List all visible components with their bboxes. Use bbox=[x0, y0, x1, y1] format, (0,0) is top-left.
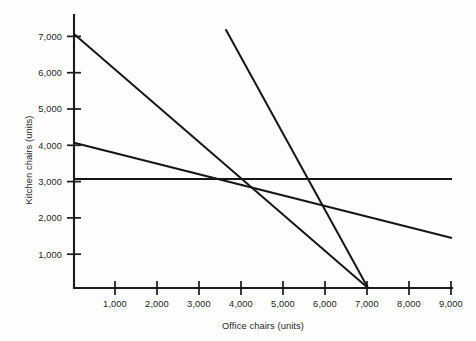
series-group bbox=[74, 29, 452, 288]
x-tick-label-9000: 9,000 bbox=[439, 299, 463, 309]
y-tick-label-2000: 2,000 bbox=[38, 213, 62, 223]
y-axis-title: Kitchen chairs (units) bbox=[24, 115, 34, 204]
y-tick-label-5000: 5,000 bbox=[38, 104, 62, 114]
y-tick-label-3000: 3,000 bbox=[38, 177, 62, 187]
y-tick-label-4000: 4,000 bbox=[38, 141, 62, 151]
x-tick-label-6000: 6,000 bbox=[313, 299, 337, 309]
series-constraint-line-1 bbox=[74, 34, 368, 288]
y-tick-label-1000: 1,000 bbox=[38, 250, 62, 260]
axes-group bbox=[74, 15, 452, 288]
x-tick-label-8000: 8,000 bbox=[397, 299, 421, 309]
series-constraint-line-2 bbox=[74, 143, 452, 238]
x-tick-label-7000: 7,000 bbox=[355, 299, 379, 309]
series-constraint-line-4 bbox=[226, 29, 368, 288]
x-axis-title: Office chairs (units) bbox=[222, 321, 304, 331]
x-tick-label-4000: 4,000 bbox=[229, 299, 253, 309]
y-tick-label-6000: 6,000 bbox=[38, 68, 62, 78]
y-tick-label-7000: 7,000 bbox=[38, 32, 62, 42]
x-tick-label-3000: 3,000 bbox=[187, 299, 211, 309]
x-tick-label-5000: 5,000 bbox=[271, 299, 295, 309]
x-tick-label-1000: 1,000 bbox=[103, 299, 127, 309]
line-chart-svg: 1,000 2,000 3,000 4,000 5,000 6,000 7,00… bbox=[0, 0, 476, 341]
x-axis-ticks: 1,000 2,000 3,000 4,000 5,000 6,000 7,00… bbox=[103, 281, 463, 309]
x-tick-label-2000: 2,000 bbox=[145, 299, 169, 309]
chart-container: 1,000 2,000 3,000 4,000 5,000 6,000 7,00… bbox=[0, 0, 476, 341]
